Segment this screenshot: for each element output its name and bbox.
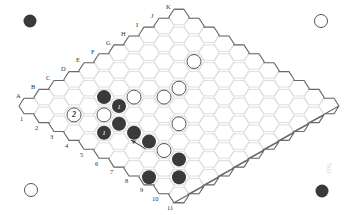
- white-stone: [172, 81, 186, 95]
- row-label: J: [151, 12, 154, 19]
- black-stone: [127, 126, 141, 140]
- column-label: 6: [95, 160, 99, 167]
- white-stone: [97, 108, 111, 122]
- black-stone: [172, 152, 186, 166]
- white-stone: [187, 55, 201, 69]
- column-label: 9: [140, 186, 143, 193]
- column-label: 1: [20, 115, 23, 122]
- black-stone: [112, 117, 126, 131]
- row-label: C: [46, 74, 50, 81]
- black-stone: [142, 135, 156, 149]
- column-label: 2: [35, 124, 38, 131]
- row-label: H: [121, 30, 126, 37]
- hex-board: ABCDEFGHIJK1234567891011 112: [0, 0, 353, 215]
- black-stone: [142, 170, 156, 184]
- column-label: 7: [110, 168, 114, 175]
- top-left-corner-black-stone: [24, 15, 37, 28]
- row-label: F: [91, 48, 95, 55]
- row-label: K: [166, 3, 171, 10]
- row-label: I: [136, 21, 138, 28]
- column-label: 5: [80, 151, 83, 158]
- page-number: 503: [325, 163, 333, 174]
- move-number: 1: [117, 103, 121, 111]
- move-number: 1: [102, 129, 106, 137]
- row-label: A: [16, 92, 21, 99]
- bottom-left-corner-white-stone: [25, 184, 38, 197]
- black-stone: [97, 90, 111, 104]
- column-label: 11: [167, 204, 173, 211]
- column-label: 4: [65, 142, 69, 149]
- move-number: 2: [71, 110, 76, 119]
- top-right-corner-white-stone: [315, 15, 328, 28]
- row-label: D: [61, 65, 66, 72]
- black-stone: [172, 170, 186, 184]
- row-label: E: [76, 56, 80, 63]
- white-stone: [127, 90, 141, 104]
- row-label: B: [31, 83, 36, 90]
- column-label: 8: [125, 177, 128, 184]
- bottom-right-corner-black-stone: [316, 185, 329, 198]
- white-stone: [172, 117, 186, 131]
- row-label: G: [106, 39, 111, 46]
- white-stone: [157, 90, 171, 104]
- white-stone: [157, 144, 171, 158]
- column-label: 3: [50, 133, 53, 140]
- column-label: 10: [152, 195, 159, 202]
